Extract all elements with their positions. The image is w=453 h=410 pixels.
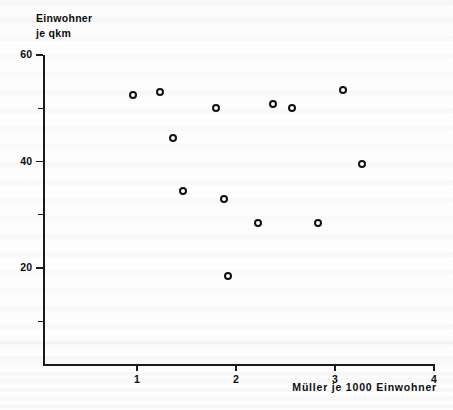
x-tick-2 (235, 364, 236, 371)
scatter-chart: Einwohner je qkm Müller je 1000 Einwohne… (0, 0, 453, 410)
x-axis-title: Müller je 1000 Einwohner (292, 381, 437, 393)
data-point (156, 88, 164, 96)
y-tick-label-40: 40 (6, 155, 32, 167)
data-point (358, 160, 366, 168)
data-point (179, 187, 187, 195)
y-tick-label-60: 60 (6, 48, 32, 60)
x-tick-1 (136, 364, 137, 371)
x-tick-label-1: 1 (127, 373, 147, 385)
x-tick-label-2: 2 (226, 373, 246, 385)
x-tick-3 (334, 364, 335, 371)
y-minor-tick-30 (38, 214, 43, 215)
data-point (314, 219, 322, 227)
data-point (269, 100, 277, 108)
data-point (339, 86, 347, 94)
x-tick-label-4: 4 (424, 373, 444, 385)
y-axis-line (43, 55, 45, 365)
data-point (169, 134, 177, 142)
data-point (220, 195, 228, 203)
data-point (254, 219, 262, 227)
y-tick-label-20: 20 (6, 261, 32, 273)
data-point (288, 104, 296, 112)
x-tick-4 (433, 364, 434, 371)
y-axis-title-line-2: je qkm (36, 27, 71, 39)
y-axis-title-line-1: Einwohner (36, 12, 92, 24)
data-point (212, 104, 220, 112)
y-tick-40 (36, 161, 43, 162)
x-tick-label-3: 3 (325, 373, 345, 385)
data-point (224, 272, 232, 280)
y-tick-60 (36, 54, 43, 55)
data-point (129, 91, 137, 99)
y-minor-tick-10 (38, 321, 43, 322)
y-minor-tick-50 (38, 108, 43, 109)
y-tick-20 (36, 267, 43, 268)
x-axis-line (43, 364, 434, 366)
